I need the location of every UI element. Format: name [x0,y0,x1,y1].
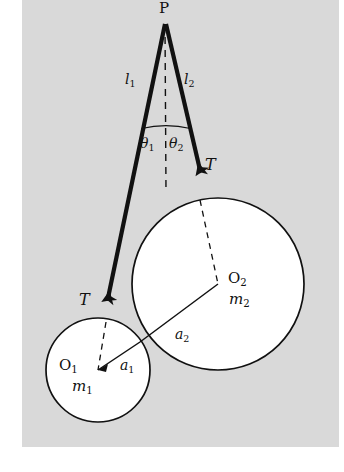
label-mass-m1: m1 [72,379,93,396]
label-radius-a1-subscript: 1 [128,364,134,375]
label-mass-m2: m2 [229,292,250,309]
label-angle-theta2-subscript: 2 [177,142,183,153]
label-mass-m2-subscript: 2 [243,298,249,309]
diagram-canvas [0,0,344,472]
label-mass-m1-subscript: 1 [86,385,92,396]
label-tension-right: T [205,157,216,173]
label-radius-a2-subscript: 2 [183,333,189,344]
label-center-o2: O2 [228,271,247,288]
physics-diagram-figure: P l1 l2 θ1 θ2 T T O2 m2 a2 O1 m1 a1 [0,0,344,472]
label-center-o1: O1 [59,358,78,375]
label-length-l1-subscript: 1 [129,78,135,89]
label-center-o2-subscript: 2 [240,277,246,288]
label-radius-a1: a1 [120,358,134,374]
label-length-l1: l1 [125,72,136,88]
label-length-l2: l2 [184,72,195,88]
label-angle-theta1-subscript: 1 [148,142,154,153]
label-tension-left: T [79,292,90,308]
label-point-p: P [159,1,169,16]
label-center-o1-subscript: 1 [71,364,77,375]
label-center-o2-base: O [228,269,240,287]
label-angle-theta1: θ1 [140,136,155,152]
label-angle-theta2: θ2 [169,136,184,152]
label-center-o1-base: O [59,356,71,374]
label-length-l2-subscript: 2 [188,78,194,89]
label-mass-m2-base: m [229,290,243,308]
label-mass-m1-base: m [72,377,86,395]
label-radius-a2: a2 [175,327,189,343]
